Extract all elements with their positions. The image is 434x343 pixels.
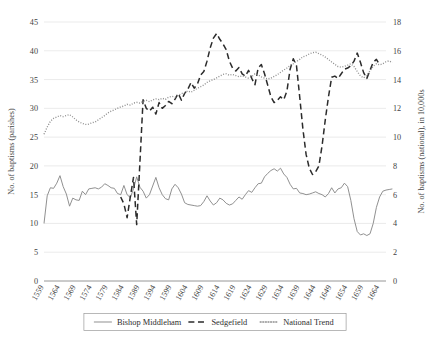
data-series-group (44, 34, 392, 236)
x-axis-tick-label: 1589 (126, 284, 142, 303)
y-axis-right-tick-label: 0 (393, 277, 397, 286)
legend-label-national-trend: National Trend (283, 318, 334, 327)
y-axis-left-tick-label: 20 (30, 162, 38, 171)
x-axis-tick-label: 1639 (286, 284, 302, 303)
y-axis-left-tick-label: 40 (30, 47, 38, 56)
legend-label-sedgefield: Sedgefield (211, 318, 248, 327)
x-axis-tick-label: 1594 (142, 284, 158, 303)
series-line-national-trend (44, 52, 392, 134)
x-axis-tick-label: 1599 (158, 284, 174, 303)
x-axis-tick-label: 1574 (78, 284, 94, 303)
series-line-sedgefield (121, 34, 380, 225)
y-axis-left-tick-label: 30 (30, 104, 38, 113)
chart-legend: Bishop MiddlehamSedgefieldNational Trend (84, 314, 346, 331)
y-axis-right-tick-label: 18 (393, 18, 401, 27)
x-axis-tick-label: 1624 (238, 284, 254, 303)
y-axis-left-tick-label: 10 (30, 219, 38, 228)
y-axis-left-title: No. of baptisms (parishes) (7, 108, 16, 195)
x-axis-tick-label: 1609 (190, 284, 206, 303)
x-axis-tick-label: 1579 (94, 284, 110, 303)
y-axis-right-tick-label: 8 (393, 162, 397, 171)
x-axis-tick-label: 1649 (318, 284, 334, 303)
x-axis-tick-label: 1584 (110, 284, 126, 303)
y-axis-left-tick-label: 5 (34, 248, 38, 257)
y-axis-right-ticks: 024681012141618 (393, 18, 401, 286)
x-axis-ticks: 1559156415691574157915841589159415991604… (30, 284, 381, 303)
chart-container: 051015202530354045 024681012141618 15591… (0, 0, 434, 343)
x-axis-tick-label: 1564 (46, 284, 62, 303)
x-axis-tick-label: 1644 (302, 284, 318, 303)
y-axis-right-tick-label: 16 (393, 47, 401, 56)
x-axis-tick-label: 1654 (333, 284, 349, 303)
series-line-bishop-middleham (44, 168, 392, 235)
x-axis-tick-label: 1619 (222, 284, 238, 303)
legend-label-bishop-middleham: Bishop Middleham (117, 318, 182, 327)
y-axis-left-tick-label: 35 (30, 76, 38, 85)
y-axis-right-tick-label: 12 (393, 104, 401, 113)
x-axis-tick-label: 1569 (62, 284, 78, 303)
x-axis-tick-label: 1664 (365, 284, 381, 303)
x-axis-tick-label: 1659 (349, 284, 365, 303)
baptisms-line-chart: 051015202530354045 024681012141618 15591… (0, 0, 434, 343)
x-axis-tick-label: 1559 (30, 284, 46, 303)
y-axis-right-tick-label: 14 (393, 76, 401, 85)
x-axis-tick-label: 1604 (174, 284, 190, 303)
y-axis-right-tick-label: 6 (393, 191, 397, 200)
x-axis-tick-label: 1634 (270, 284, 286, 303)
gridlines-group (44, 22, 386, 281)
y-axis-right-tick-label: 2 (393, 248, 397, 257)
y-axis-left-ticks: 051015202530354045 (30, 18, 38, 286)
y-axis-right-tick-label: 10 (393, 133, 401, 142)
y-axis-right-tick-label: 4 (393, 219, 397, 228)
y-axis-left-tick-label: 25 (30, 133, 38, 142)
x-axis-tick-label: 1629 (254, 284, 270, 303)
y-axis-left-tick-label: 45 (30, 18, 38, 27)
y-axis-left-tick-label: 15 (30, 191, 38, 200)
y-axis-right-title: No. of baptisms (national), in 10,000s (417, 89, 426, 213)
x-axis-tick-label: 1614 (206, 284, 222, 303)
